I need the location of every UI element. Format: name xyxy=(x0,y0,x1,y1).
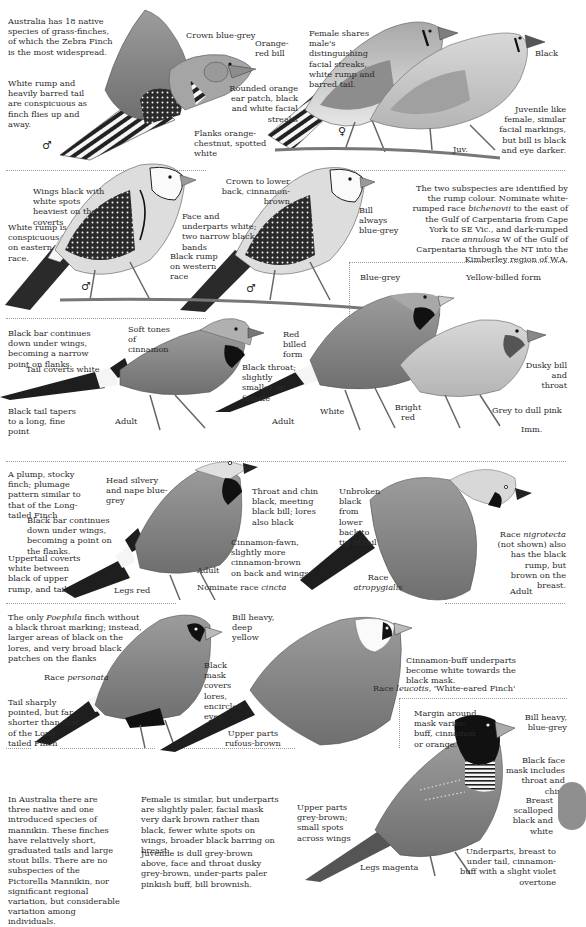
zebra-intro-text: Australia has 18 native species of grass… xyxy=(8,16,114,57)
mf-race-name: personata xyxy=(67,672,108,682)
btf-legs-label: Legs red xyxy=(114,585,150,595)
dbf-white-rump-label: White rump is conspicuous on eastern rac… xyxy=(8,222,70,263)
zebra-female-symbol: ♀ xyxy=(338,127,346,137)
divider-longtailed-top-left xyxy=(6,318,206,319)
zebra-ear-label: Rounded orange ear patch, black and whit… xyxy=(218,83,298,124)
zebra-bill-label: Orange-red bill xyxy=(255,38,285,58)
zebra-rump-note: White rump and heavily barred tail are c… xyxy=(8,78,88,129)
pm-breast-label: Breast scalloped black and white xyxy=(493,795,553,836)
ltf-grey-pink-label: Grey to dull pink xyxy=(492,405,562,415)
pm-underparts-label: Underparts, breast to under tail, cinnam… xyxy=(460,846,556,887)
dbf-wings-label: Wings black with white spots heaviest on… xyxy=(33,186,105,227)
ltf-black-bar-label: Black bar continues down under wings, be… xyxy=(8,328,100,369)
divider-masked-bottom-mid xyxy=(60,748,155,749)
ltf-black-throat-label: Black throat; slightly smaller on female xyxy=(242,362,302,403)
ltf-bright-red-label: Bright red xyxy=(392,402,424,422)
pm-face-mask-label: Black face mask includes throat and chin… xyxy=(503,755,565,796)
mf-cinnamon-buff-label: Cinnamon-buff underparts become white to… xyxy=(406,655,524,686)
btf-nominate-prefix: Nominate race xyxy=(197,582,261,592)
btf-throat-label: Throat and chin black, meeting black bil… xyxy=(252,486,324,527)
btf-nigrotecta-text: (not shown) also has the black rump, but… xyxy=(498,539,566,590)
dbf-subspecies-race-2: annulosa xyxy=(462,234,499,244)
dbf-male-symbol-2: ♂ xyxy=(246,284,256,294)
mf-leucotis-label: Race leucotis, 'White-eared Finch' xyxy=(373,683,515,693)
ltf-adult-label-2: Adult xyxy=(272,416,294,426)
btf-head-label: Head silvery and nape blue-grey xyxy=(106,475,176,506)
divider-zebra-doublebarred-left xyxy=(6,170,206,171)
btf-unbroken-label: Unbroken black from lower back to tip of… xyxy=(339,486,379,547)
mf-intro-prefix: The only xyxy=(8,612,46,622)
ltf-blue-grey-label: Blue-grey xyxy=(360,272,400,282)
mf-intro-text: The only Poephila finch without a black … xyxy=(8,612,146,663)
dbf-male-symbol-1: ♂ xyxy=(81,282,91,292)
pm-bill-label: Bill heavy, blue-grey xyxy=(522,712,567,732)
zebra-crown-label: Crown blue-grey xyxy=(186,30,255,40)
zebra-flanks-label: Flanks orange-chestnut, spotted white xyxy=(194,128,280,159)
zebra-female-note: Female shares male's distinguishing faci… xyxy=(309,28,387,89)
dbf-subspecies-note: The two subspecies are identified by the… xyxy=(412,183,568,265)
pm-margin-label: Margin around mask varies: buff, cinnamo… xyxy=(414,708,484,749)
zebra-male-symbol: ♂ xyxy=(42,141,52,151)
mf-intro-genus: Poephila xyxy=(46,612,82,622)
mf-leucotis-prefix: Race xyxy=(373,683,396,693)
btf-nominate-label: Nominate race cincta xyxy=(197,582,286,592)
ltf-red-billed-label: Red billed form xyxy=(283,329,323,360)
divider-pictorella-top xyxy=(399,698,567,699)
mf-leucotis-rest: , 'White-eared Finch' xyxy=(429,683,516,693)
ltf-tail-coverts-label: Tail coverts white xyxy=(26,364,100,374)
mf-race-label: Race personata xyxy=(44,672,109,682)
divider-masked-bottom-left xyxy=(6,748,31,749)
dbf-face-label: Face and underparts white; two narrow bl… xyxy=(182,211,262,252)
pm-female-note: Female is similar, but underparts are sl… xyxy=(141,794,281,855)
mf-race-prefix: Race xyxy=(44,672,67,682)
divider-pictorella-vertical xyxy=(399,698,400,748)
btf-adult-flight-label: Adult xyxy=(510,586,532,596)
pm-legs-label: Legs magenta xyxy=(360,862,419,872)
mf-mask-label: Black mask covers lores, encircles eyes. xyxy=(204,660,246,721)
pm-upper-parts-label: Upper parts grey-brown; small spots acro… xyxy=(297,802,357,843)
zebra-juvenile-note: Juvenile like female, similar facial mar… xyxy=(490,104,566,155)
divider-longtailed-vertical xyxy=(349,262,350,318)
divider-blackthroated-bottom-left xyxy=(6,603,176,604)
btf-adult-label: Adult xyxy=(197,565,219,575)
btf-race-word: Race xyxy=(368,572,389,582)
ltf-yellow-billed-label: Yellow-billed form xyxy=(466,272,541,282)
zebra-juv-label: Juv. xyxy=(453,144,468,154)
ltf-white-label: White xyxy=(320,406,344,416)
btf-nominate-race: cincta xyxy=(261,582,286,592)
divider-blackthroated-top xyxy=(6,461,566,462)
dbf-black-rump-label: Black rump on western race xyxy=(170,251,218,282)
ltf-black-tail-label: Black tail tapers to a long, fine point xyxy=(8,406,80,437)
mf-leucotis-name: leucotis xyxy=(396,683,428,693)
btf-intro-text: A plump, stocky finch; plumage pattern s… xyxy=(8,469,84,520)
btf-nigrotecta-note: Race nigrotecta (not shown) also has the… xyxy=(496,529,566,590)
btf-race-label: Race atropygialis xyxy=(350,572,406,592)
btf-uppertail-label: Uppertail coverts white between black of… xyxy=(8,553,88,594)
side-thumb-tab xyxy=(558,782,586,830)
dbf-bill-label: Bill always blue-grey xyxy=(359,205,401,236)
pm-juvenile-note: Juvenile is dull grey-brown above, face … xyxy=(141,848,273,889)
divider-zebra-doublebarred-right xyxy=(350,170,565,171)
ltf-soft-tones-label: Soft tones of cinnamon xyxy=(128,324,174,355)
mf-tail-label: Tail sharply pointed, but far shorter th… xyxy=(8,697,80,748)
zebra-black-label: Black xyxy=(535,48,558,58)
btf-nigrotecta-name: nigrotecta xyxy=(523,529,566,539)
btf-race-name: atropygialis xyxy=(353,582,402,592)
mf-upper-parts-label: Upper parts rufous-brown xyxy=(225,728,281,748)
dbf-crown-label: Crown to lower back, cinnamon-brown xyxy=(208,176,290,207)
ltf-imm-label: Imm. xyxy=(521,424,542,434)
perch-branch-2 xyxy=(60,299,440,315)
ltf-adult-label-1: Adult xyxy=(115,416,137,426)
mf-bill-label: Bill heavy, deep yellow xyxy=(232,612,277,643)
btf-nigrotecta-prefix: Race xyxy=(500,529,523,539)
btf-black-bar-label: Black bar continues down under wings, be… xyxy=(27,515,119,556)
pm-intro-text: In Australia there are three native and … xyxy=(8,794,120,927)
dbf-subspecies-race-1: bichenovii xyxy=(468,203,511,213)
btf-cinnamon-label: Cinnamon-fawn, slightly more cinnamon-br… xyxy=(231,537,313,578)
divider-blackthroated-bottom-right xyxy=(445,603,565,604)
ltf-dusky-label: Dusky bill and throat xyxy=(525,360,567,391)
